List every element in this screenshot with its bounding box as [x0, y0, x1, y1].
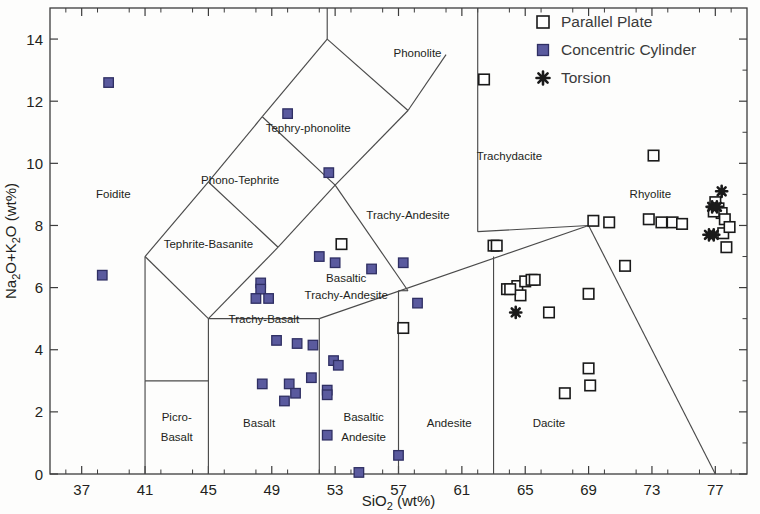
- x-tick-label-65: 65: [517, 481, 534, 498]
- data-point-concentric-cylinder-12: [413, 298, 423, 308]
- field-label-trachydacite-4: Trachydacite: [477, 150, 542, 162]
- field-label-trachy-basalt-10: Trachy-Basalt: [229, 313, 300, 325]
- y-tick-label-4: 4: [35, 341, 43, 358]
- data-point-concentric-cylinder-25: [322, 430, 332, 440]
- data-point-parallel-plate-5: [336, 239, 347, 250]
- data-point-concentric-cylinder-24: [322, 390, 332, 400]
- x-tick-label-61: 61: [454, 481, 471, 498]
- data-point-concentric-cylinder-17: [334, 361, 344, 371]
- data-point-concentric-cylinder-6: [251, 294, 261, 304]
- data-point-concentric-cylinder-5: [256, 284, 265, 294]
- data-point-concentric-cylinder-21: [291, 388, 301, 398]
- field-label-basaltic-14: Basaltic: [344, 411, 385, 423]
- data-point-concentric-cylinder-2: [283, 109, 293, 119]
- data-point-concentric-cylinder-0: [104, 78, 114, 88]
- data-point-concentric-cylinder-8: [330, 258, 340, 268]
- data-point-parallel-plate-21: [656, 217, 667, 228]
- y-axis-title: Na2O+K2O (wt%): [2, 183, 22, 299]
- data-point-parallel-plate-10: [529, 275, 540, 286]
- field-label-phono-tephrite-3: Phono-Tephrite: [201, 174, 279, 186]
- field-label-basalt-13: Basalt: [243, 417, 276, 429]
- data-point-concentric-cylinder-1: [98, 270, 108, 280]
- y-tick-label-14: 14: [26, 31, 43, 48]
- x-tick-label-41: 41: [137, 481, 154, 498]
- field-label-picro--11: Picro-: [162, 411, 192, 423]
- data-point-concentric-cylinder-20: [258, 379, 268, 389]
- legend-marker-1: [538, 45, 549, 56]
- field-boundary-13: [145, 257, 208, 319]
- x-tick-label-45: 45: [200, 481, 217, 498]
- data-point-concentric-cylinder-14: [292, 339, 302, 349]
- data-point-parallel-plate-13: [505, 284, 516, 295]
- data-point-parallel-plate-20: [644, 214, 655, 225]
- data-point-parallel-plate-19: [560, 388, 571, 399]
- data-point-concentric-cylinder-26: [394, 451, 404, 461]
- field-label-tephry-phonolite-2: Tephry-phonolite: [266, 122, 351, 134]
- data-point-parallel-plate-4: [491, 240, 502, 251]
- data-point-parallel-plate-23: [677, 219, 688, 230]
- data-point-parallel-plate-15: [588, 216, 599, 227]
- data-point-concentric-cylinder-22: [280, 396, 290, 406]
- data-point-concentric-cylinder-11: [315, 252, 325, 261]
- field-label-andesite-16: Andesite: [427, 417, 472, 429]
- x-tick-label-37: 37: [73, 481, 90, 498]
- data-point-parallel-plate-2: [398, 323, 409, 334]
- data-point-parallel-plate-16: [604, 217, 615, 228]
- data-point-parallel-plate-14: [583, 289, 594, 300]
- y-tick-label-2: 2: [35, 403, 43, 420]
- legend-label-1: Concentric Cylinder: [561, 41, 696, 58]
- field-label-tephrite-basanite-6: Tephrite-Basanite: [164, 238, 254, 250]
- field-boundary-15: [208, 247, 278, 318]
- x-tick-label-73: 73: [644, 481, 661, 498]
- data-point-parallel-plate-0: [479, 74, 490, 85]
- x-axis-title: SiO2 (wt%): [362, 492, 436, 512]
- data-point-parallel-plate-7: [515, 290, 526, 301]
- field-label-rhyolite-5: Rhyolite: [630, 188, 672, 200]
- legend-marker-0: [537, 16, 549, 28]
- x-tick-label-49: 49: [263, 481, 280, 498]
- data-point-parallel-plate-18: [585, 380, 596, 391]
- field-label-trachy-andesite-9: Trachy-Andesite: [305, 289, 388, 301]
- tas-plot-svg: 374145495357616569737702468101214SiO2 (w…: [0, 0, 760, 514]
- y-tick-label-8: 8: [35, 217, 43, 234]
- data-point-concentric-cylinder-18: [307, 373, 317, 383]
- field-boundary-11: [262, 39, 327, 117]
- field-label-basaltic-8: Basaltic: [326, 272, 367, 284]
- data-point-torsion-0: [510, 307, 521, 318]
- data-point-parallel-plate-1: [648, 150, 659, 161]
- field-label-phonolite-1: Phonolite: [394, 47, 442, 59]
- data-point-concentric-cylinder-27: [354, 468, 364, 478]
- data-point-concentric-cylinder-19: [284, 379, 294, 389]
- data-point-torsion-3: [711, 201, 722, 212]
- field-label-trachy-andesite-7: Trachy-Andesite: [366, 209, 449, 221]
- legend-label-0: Parallel Plate: [561, 13, 652, 30]
- legend-marker-2: [537, 72, 550, 85]
- y-tick-label-12: 12: [26, 93, 43, 110]
- data-point-parallel-plate-30: [724, 222, 735, 233]
- x-tick-label-69: 69: [580, 481, 597, 498]
- data-point-concentric-cylinder-15: [308, 340, 318, 350]
- tas-diagram-figure: 374145495357616569737702468101214SiO2 (w…: [0, 0, 760, 514]
- field-boundary-25: [589, 225, 716, 474]
- data-point-concentric-cylinder-13: [272, 336, 282, 346]
- data-point-concentric-cylinder-10: [399, 258, 409, 268]
- legend-label-2: Torsion: [561, 69, 611, 86]
- data-point-parallel-plate-11: [544, 307, 555, 318]
- x-tick-label-77: 77: [707, 481, 724, 498]
- data-point-torsion-5: [708, 229, 719, 240]
- x-tick-label-53: 53: [327, 481, 344, 498]
- data-point-parallel-plate-24: [620, 261, 631, 272]
- field-label-basalt-12: Basalt: [161, 431, 194, 443]
- data-point-concentric-cylinder-3: [324, 168, 334, 178]
- data-point-parallel-plate-17: [583, 363, 594, 374]
- data-point-concentric-cylinder-7: [264, 294, 274, 304]
- y-tick-label-0: 0: [35, 466, 43, 483]
- y-tick-label-10: 10: [26, 155, 43, 172]
- field-label-foidite-0: Foidite: [96, 188, 131, 200]
- field-label-dacite-17: Dacite: [533, 417, 566, 429]
- data-point-concentric-cylinder-9: [367, 264, 377, 274]
- field-boundary-24: [408, 55, 446, 111]
- data-point-torsion-1: [716, 186, 727, 197]
- y-tick-label-6: 6: [35, 279, 43, 296]
- field-boundary-17: [278, 185, 335, 247]
